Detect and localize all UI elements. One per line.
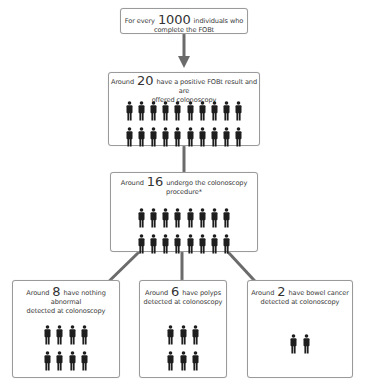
person-icon [81,325,88,345]
step1-people [109,101,259,147]
person-icon [174,208,181,228]
people-row [140,325,226,345]
step1-box: Around 20 have a positive FOBt result an… [108,72,260,146]
step1-prefix: Around [111,78,134,86]
person-icon [192,325,199,345]
person-icon [223,101,230,121]
person-icon [211,101,218,121]
person-icon [223,234,230,254]
step2-prefix: Around [121,179,144,187]
people-row [13,351,119,371]
person-icon [44,325,51,345]
person-icon [150,208,157,228]
person-icon [187,101,194,121]
person-icon [150,127,157,147]
person-icon [81,351,88,371]
outcome2-line1: have polyps [182,289,221,297]
people-row [111,234,257,254]
person-icon [138,127,145,147]
person-icon [138,101,145,121]
step2-line2: procedure* [166,188,202,196]
person-icon [138,234,145,254]
person-icon [138,208,145,228]
person-icon [162,127,169,147]
outcome1-number: 8 [52,284,60,299]
people-row [140,351,226,371]
start-box: For every 1000 individuals who complete … [120,8,248,34]
person-icon [199,234,206,254]
outcome2-prefix: Around [145,289,168,297]
person-icon [180,325,187,345]
outcome3-prefix: Around [251,289,274,297]
person-icon [180,351,187,371]
person-icon [211,208,218,228]
step2-box: Around 16 undergo the colonoscopy proced… [110,172,258,252]
person-icon [44,351,51,371]
person-icon [211,234,218,254]
step1-number: 20 [137,73,153,88]
person-icon [235,127,242,147]
people-row [109,127,259,147]
outcome-box-1: Around 8 have nothing abnormal detected … [12,280,120,378]
person-icon [167,325,174,345]
person-icon [303,334,310,354]
person-icon [187,208,194,228]
people-row [109,101,259,121]
outcome1-people [13,325,119,371]
person-icon [162,208,169,228]
person-icon [126,101,133,121]
person-icon [162,234,169,254]
outcome2-number: 6 [171,284,179,299]
person-icon [69,351,76,371]
person-icon [223,208,230,228]
start-prefix: For every [125,17,155,25]
person-icon [211,127,218,147]
outcome3-people [248,334,352,354]
person-icon [167,351,174,371]
step2-number: 16 [147,174,163,189]
person-icon [56,325,63,345]
person-icon [150,101,157,121]
start-number: 1000 [158,12,191,27]
outcome-box-3: Around 2 have bowel cancer detected at c… [247,280,353,378]
people-row [13,325,119,345]
outcome3-line2: detected at colonoscopy [261,298,340,306]
step2-people [111,208,257,254]
person-icon [174,101,181,121]
person-icon [174,234,181,254]
person-icon [187,234,194,254]
outcome2-people [140,325,226,371]
person-icon [162,101,169,121]
person-icon [235,101,242,121]
person-icon [290,334,297,354]
person-icon [126,127,133,147]
person-icon [199,101,206,121]
outcome-box-2: Around 6 have polyps detected at colonos… [139,280,227,378]
person-icon [150,234,157,254]
person-icon [192,351,199,371]
person-icon [199,127,206,147]
person-icon [174,127,181,147]
outcome1-prefix: Around [26,289,49,297]
step1-line1: have a positive FOBt result and are [156,78,257,95]
step2-line1: undergo the colonoscopy [166,179,247,187]
person-icon [56,351,63,371]
people-row [248,334,352,354]
outcome3-line1: have bowel cancer [288,289,348,297]
person-icon [223,127,230,147]
person-icon [199,208,206,228]
people-row [111,208,257,228]
person-icon [187,127,194,147]
outcome2-line2: detected at colonoscopy [144,298,223,306]
outcome3-number: 2 [277,284,285,299]
person-icon [69,325,76,345]
outcome1-line2: detected at colonoscopy [27,307,106,315]
